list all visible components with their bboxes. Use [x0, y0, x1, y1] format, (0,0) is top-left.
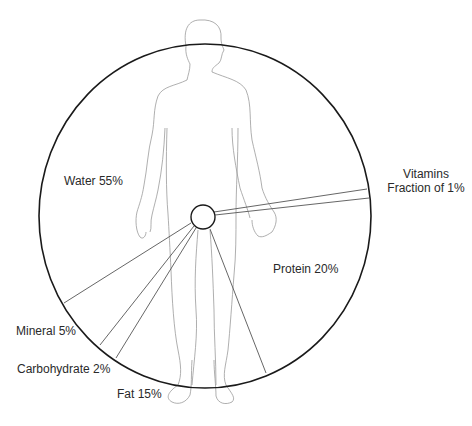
divider-mineral-carbohydrate: [100, 226, 194, 345]
label-water: Water 55%: [64, 174, 123, 188]
label-vitamins-line2: Fraction of 1%: [380, 181, 472, 195]
center-circle: [191, 205, 215, 229]
segment-dividers: [64, 189, 369, 373]
label-protein: Protein 20%: [273, 262, 338, 276]
label-fat: Fat 15%: [117, 387, 162, 401]
label-carbohydrate: Carbohydrate 2%: [17, 362, 110, 376]
label-vitamins: Vitamins Fraction of 1%: [380, 167, 472, 195]
label-vitamins-line1: Vitamins: [380, 167, 472, 181]
divider-carbohydrate-fat: [116, 228, 196, 358]
label-mineral: Mineral 5%: [16, 324, 76, 338]
divider-fat-protein: [210, 229, 266, 373]
body-composition-diagram: Water 55% Protein 20% Fat 15% Mineral 5%…: [0, 0, 472, 426]
